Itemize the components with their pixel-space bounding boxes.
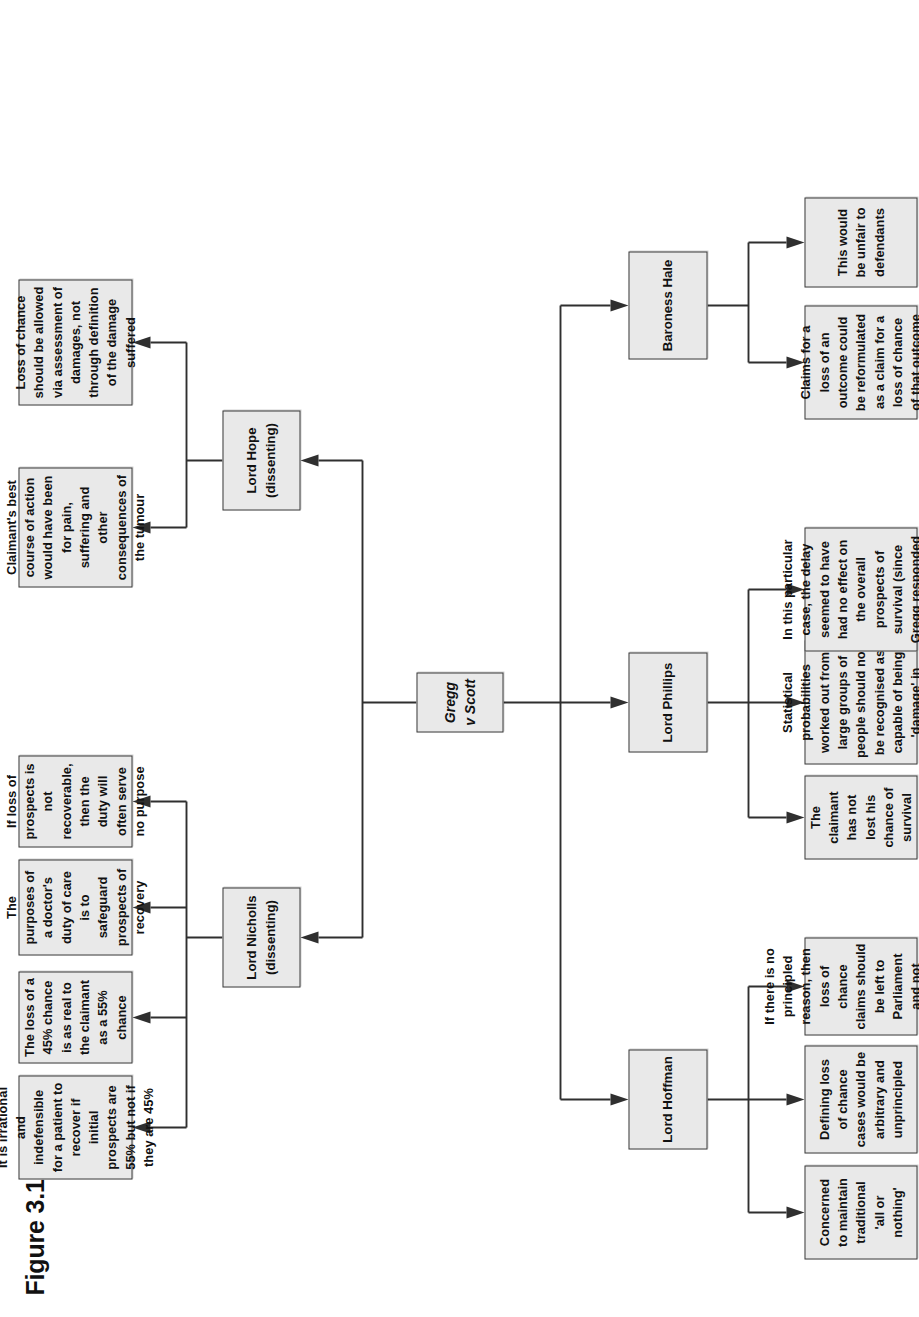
node-lord-hope[interactable]: Lord Hope (dissenting) — [222, 410, 300, 510]
node-lord-nicholls[interactable]: Lord Nicholls (dissenting) — [222, 887, 300, 987]
leaf-phillips-2[interactable]: Statistical probabilities worked out fro… — [804, 640, 917, 764]
leaf-hoffman-1[interactable]: Concerned to maintain traditional 'all o… — [804, 1165, 917, 1259]
leaf-nicholls-3[interactable]: The purposes of a doctor's duty of care … — [18, 859, 132, 955]
node-gregg-v-scott[interactable]: Gregg v Scott — [416, 672, 503, 732]
rotated-figure-wrapper: Figure 3.1 — [0, 0, 919, 1317]
leaf-hale-2[interactable]: This would be unfair to defendants — [804, 197, 917, 287]
node-lord-hoffman[interactable]: Lord Hoffman — [628, 1049, 707, 1149]
diagram-canvas: Figure 3.1 — [0, 0, 919, 1317]
leaf-nicholls-1[interactable]: It is irrational and indefensible for a … — [18, 1075, 132, 1179]
leaf-nicholls-2[interactable]: The loss of a 45% chance is as real to t… — [18, 971, 132, 1063]
leaf-hope-2[interactable]: Loss of chance should be allowed via ass… — [18, 279, 132, 405]
leaf-hale-1[interactable]: Claims for a loss of an outcome could be… — [804, 305, 917, 419]
leaf-hoffman-3[interactable]: If there is no principled reason, then l… — [804, 937, 917, 1035]
leaf-phillips-3[interactable]: In this particular case, the delay seeme… — [804, 527, 917, 651]
leaf-hoffman-2[interactable]: Defining loss of chance cases would be a… — [804, 1045, 917, 1153]
leaf-phillips-1[interactable]: The claimant has not lost his chance of … — [804, 775, 917, 859]
node-baroness-hale[interactable]: Baroness Hale — [628, 251, 707, 359]
node-lord-phillips[interactable]: Lord Phillips — [628, 652, 707, 752]
leaf-hope-1[interactable]: Claimant's best course of action would h… — [18, 467, 132, 587]
leaf-nicholls-4[interactable]: If loss of prospects is not recoverable,… — [18, 755, 132, 847]
